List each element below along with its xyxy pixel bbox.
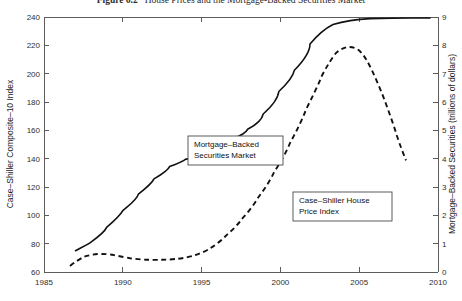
left-tick-label: 100: [27, 211, 41, 220]
right-axis-title: Mortgage–Backed Securities (trillions of…: [447, 54, 457, 234]
chart-plot: 60 80 100 120 140 160 180 200 220 240 0 …: [0, 0, 462, 301]
x-tick-label: 2010: [429, 278, 447, 287]
left-tick-label: 240: [27, 13, 41, 22]
left-tick-label: 160: [27, 126, 41, 135]
annotation-mbs-line2: Securities Market: [194, 151, 257, 160]
annotation-case-shiller: Case–Shiller House Price Index: [293, 192, 392, 221]
left-tick-label: 120: [27, 183, 41, 192]
x-tick-label: 2000: [272, 278, 290, 287]
left-axis-ticks: 60 80 100 120 140 160 180 200 220 240: [27, 13, 49, 277]
right-tick-label: 1: [442, 240, 447, 249]
figure-container: Figure 6.2House Prices and the Mortgage-…: [0, 0, 462, 301]
left-tick-label: 220: [27, 41, 41, 50]
annotation-mortgage-backed-securities: Mortgage–Backed Securities Market: [188, 136, 283, 165]
x-tick-label: 2005: [350, 278, 368, 287]
left-tick-label: 180: [27, 98, 41, 107]
right-axis-ticks: 0 1 2 3 4 5 6 7 8 9: [433, 13, 447, 277]
left-tick-label: 200: [27, 70, 41, 79]
left-tick-label: 80: [31, 240, 40, 249]
left-tick-label: 60: [31, 268, 40, 277]
annotation-cs-line2: Price Index: [299, 207, 339, 216]
right-tick-label: 9: [442, 13, 447, 22]
annotation-mbs-line1: Mortgage–Backed: [194, 140, 259, 149]
right-tick-label: 0: [442, 268, 447, 277]
annotation-cs-line1: Case–Shiller House: [299, 196, 370, 205]
right-tick-label: 8: [442, 41, 447, 50]
left-axis-title: Case–Shiller Composite–10 Index: [5, 79, 15, 208]
x-tick-label: 1995: [193, 278, 211, 287]
x-tick-label: 1985: [35, 278, 53, 287]
left-tick-label: 140: [27, 155, 41, 164]
x-tick-label: 1990: [114, 278, 132, 287]
